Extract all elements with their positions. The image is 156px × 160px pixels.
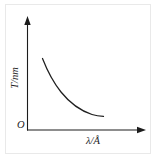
x-axis-label: λ/Å [86,136,100,147]
y-axis-arrowhead [24,16,30,25]
y-axis-label: T/nm [8,58,22,98]
origin-label: O [17,120,25,131]
y-axis-label-text: T/nm [10,67,21,89]
data-curve-decay [43,59,104,117]
plot-canvas [0,0,156,160]
figure-container: T/nm λ/Å O [0,0,156,160]
x-axis-arrowhead [137,127,146,133]
